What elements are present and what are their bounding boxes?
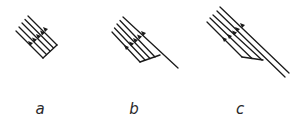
- panel-c-label: c: [236, 102, 244, 117]
- panel-a-rays: [16, 16, 57, 58]
- panel-c-rays: [207, 7, 289, 77]
- panel-b-label: b: [129, 102, 139, 117]
- diagram-canvas: [0, 0, 303, 122]
- panel-a-label: a: [35, 102, 44, 117]
